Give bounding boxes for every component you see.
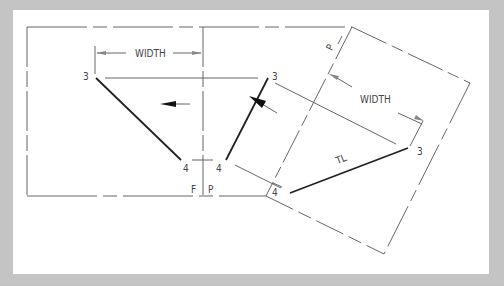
arrowhead-left	[96, 51, 106, 55]
fold-label-aux-p: P	[324, 42, 337, 52]
projection-line-4-aux	[235, 165, 281, 188]
line-3-4-front-view	[96, 78, 181, 160]
fold-label-f: F	[191, 184, 196, 195]
sight-arrow-aux-shaft	[262, 104, 277, 113]
aux-width-extension-line	[410, 121, 423, 146]
arrowhead-right	[192, 51, 202, 55]
point-3-aux-label: 3	[417, 146, 423, 157]
sight-arrow-aux	[249, 96, 277, 113]
line-3-4-true-length	[290, 148, 408, 193]
sight-arrow-front	[160, 101, 190, 107]
aux-arrowhead-left	[329, 74, 339, 80]
width-dimension-front: WIDTH	[95, 46, 202, 74]
width-label-front: WIDTH	[135, 48, 166, 59]
sight-arrowhead	[160, 101, 176, 107]
point-4-profile-label: 4	[216, 163, 222, 174]
aux-frame-bottom-edge	[266, 196, 384, 254]
projection-line-3-aux	[275, 83, 396, 144]
width-dimension-aux: WIDTH	[329, 74, 424, 146]
point-3-front-label: 3	[83, 71, 89, 82]
line-3-4-profile-view	[226, 78, 268, 160]
aux-arrowhead-right	[414, 115, 424, 121]
aux-frame-top-edge	[352, 27, 470, 83]
width-label-aux: WIDTH	[360, 94, 391, 105]
fold-line-p-1	[266, 27, 352, 196]
point-3-profile-label: 3	[272, 71, 278, 82]
front-view-frame	[27, 27, 352, 196]
tick-1-aux	[338, 36, 342, 44]
point-4-aux-label: 4	[272, 187, 278, 198]
technical-drawing: WIDTH WIDTH 3 4 3 4 3 4 TL F P P	[0, 0, 504, 286]
true-length-label: TL	[333, 152, 348, 167]
auxiliary-view-frame	[266, 27, 470, 254]
aux-frame-right-edge	[384, 83, 470, 254]
fold-label-p: P	[208, 184, 214, 195]
point-4-front-label: 4	[183, 163, 189, 174]
